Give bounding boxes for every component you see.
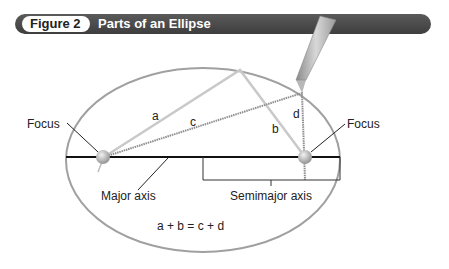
major-axis-label: Major axis xyxy=(101,189,156,203)
segment-d-label: d xyxy=(293,107,300,121)
focus-left-leader xyxy=(67,123,98,152)
segment-a-label: a xyxy=(152,109,159,123)
segment-c-label: c xyxy=(190,115,196,129)
equation-label: a + b = c + d xyxy=(157,219,224,233)
focus-right-label: Focus xyxy=(347,117,380,131)
segment-b-label: b xyxy=(272,122,279,136)
semimajor-bracket xyxy=(203,157,340,180)
focus-right-pin xyxy=(298,150,312,164)
string-ab xyxy=(104,70,305,157)
pencil-icon xyxy=(296,16,336,93)
semimajor-axis-label: Semimajor axis xyxy=(230,189,312,203)
ellipse-diagram xyxy=(0,0,449,269)
major-axis-leader xyxy=(138,158,168,190)
focus-left-pin xyxy=(96,150,110,164)
focus-left-label: Focus xyxy=(27,117,60,131)
focus-right-leader xyxy=(311,124,345,152)
